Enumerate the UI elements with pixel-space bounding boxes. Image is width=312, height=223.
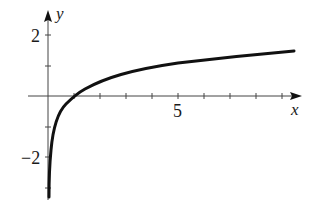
x-tick-label-5: 5 [173,101,182,121]
y-tick-label-neg2: −2 [21,148,40,168]
log-curve [49,51,294,197]
y-axis-label: y [54,4,64,23]
log-function-graph: y x 5 2 −2 [0,0,312,223]
x-axis-label: x [290,100,299,119]
y-tick-label-2: 2 [31,26,40,46]
